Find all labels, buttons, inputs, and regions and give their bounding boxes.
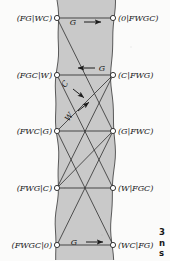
corner-line-3: s <box>159 248 170 259</box>
graph-node-L2 <box>54 72 59 77</box>
node-label-left-1: (FG|WC) <box>17 13 52 23</box>
node-label-left-3: (FWC|G) <box>17 126 52 136</box>
river-crossing-state-diagram: (FG|WC)(FGC|W)(FWC|G)(FWG|C)(FWGC|0)(0|F… <box>0 0 170 261</box>
graph-node-R5 <box>110 242 115 247</box>
node-label-right-1: (0|FWGC) <box>118 13 158 23</box>
graph-node-L1 <box>54 15 59 20</box>
graph-node-R2 <box>110 72 115 77</box>
node-label-right-3: (G|FWC) <box>118 126 153 136</box>
node-label-left-5: (FWGC|0) <box>12 240 52 250</box>
node-label-right-2: (C|FWG) <box>118 70 153 80</box>
node-label-left-4: (FWG|C) <box>17 183 52 193</box>
graph-node-L3 <box>54 128 59 133</box>
node-label-right-4: (W|FGC) <box>118 183 153 193</box>
corner-line-1: 3 <box>159 227 170 238</box>
transition-letter-g-2: G <box>99 64 105 73</box>
graph-node-L5 <box>54 242 59 247</box>
graph-node-R3 <box>110 128 115 133</box>
node-label-right-5: (WC|FG) <box>118 240 153 250</box>
graph-node-L4 <box>54 185 59 190</box>
page-margin-text: 3 n s <box>159 227 170 261</box>
node-label-left-2: (FGC|W) <box>17 70 52 80</box>
corner-line-2: n <box>159 238 170 249</box>
transition-letter-g-5: G <box>71 238 77 247</box>
graph-node-R4 <box>110 185 115 190</box>
transition-letter-g-1: G <box>70 18 76 27</box>
graph-node-R1 <box>110 15 115 20</box>
